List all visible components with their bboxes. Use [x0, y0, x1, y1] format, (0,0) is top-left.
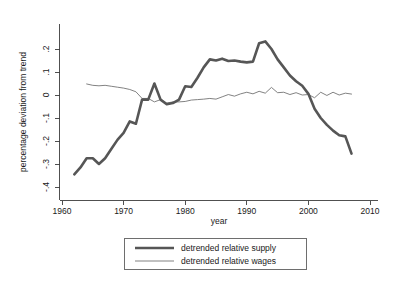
x-tick-label: 1960	[53, 206, 72, 216]
x-tick-label: 1970	[114, 206, 133, 216]
y-axis-ticks: .2.10-.1-.2-.3-.4	[41, 45, 60, 192]
series-line-detrended-relative-supply	[74, 41, 351, 174]
y-tick-label: -.2	[41, 136, 51, 146]
line-chart: .2.10-.1-.2-.3-.4 1960197019801990200020…	[0, 0, 406, 281]
x-tick-label: 1980	[176, 206, 195, 216]
y-tick-label: -.4	[41, 182, 51, 192]
chart-legend: detrended relative supply detrended rela…	[125, 239, 307, 270]
legend-label-supply: detrended relative supply	[181, 243, 277, 253]
y-tick-label: 0	[41, 92, 51, 97]
y-axis-title: percentage deviation from trend	[18, 52, 28, 172]
y-tick-label: .2	[41, 45, 51, 52]
y-tick-label: -.3	[41, 159, 51, 169]
y-tick-label: .1	[41, 68, 51, 75]
y-tick-label: -.1	[41, 113, 51, 123]
x-axis-ticks: 196019701980199020002010	[53, 201, 380, 217]
x-tick-label: 2000	[299, 206, 318, 216]
legend-label-wages: detrended relative wages	[181, 256, 276, 266]
x-tick-label: 1990	[237, 206, 256, 216]
x-tick-label: 2010	[361, 206, 380, 216]
chart-figure: .2.10-.1-.2-.3-.4 1960197019801990200020…	[0, 0, 406, 281]
x-axis-title: year	[211, 216, 228, 226]
